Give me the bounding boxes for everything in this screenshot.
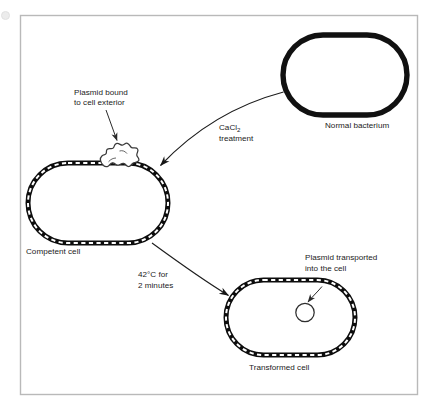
cacl2-formula-text: CaCl <box>219 123 237 132</box>
competent-cell-label: Competent cell <box>26 247 80 257</box>
transformed-cell <box>226 280 355 355</box>
plasmid-transported-label-line1: Plasmid transported <box>305 253 377 263</box>
cacl2-label-line1: CaCl2 <box>219 123 241 133</box>
plasmid-bound-label-line2: to cell exterior <box>74 98 125 108</box>
plasmid-bound-label-line1: Plasmid bound <box>74 88 128 98</box>
transformed-cell-membrane <box>226 280 355 355</box>
plasmid-interior-circle <box>296 303 314 321</box>
normal-bacterium-label: Normal bacterium <box>325 121 389 131</box>
cacl2-subscript: 2 <box>237 126 240 133</box>
transformation-diagram: Plasmid bound to cell exterior CaCl2 tre… <box>0 0 437 411</box>
transformed-cell-label: Transformed cell <box>249 363 309 373</box>
diagram-canvas <box>0 0 437 411</box>
competent-cell-membrane <box>28 163 168 243</box>
normal-bacterium-cell <box>283 35 407 115</box>
competent-cell <box>28 163 168 243</box>
cacl2-label-line2: treatment <box>219 134 253 144</box>
heat-shock-label-line1: 42°C for <box>138 270 168 280</box>
plasmid-transported-label-line2: into the cell <box>305 264 346 274</box>
normal-bacterium-membrane <box>283 35 407 115</box>
heat-shock-label-line2: 2 minutes <box>138 281 173 291</box>
